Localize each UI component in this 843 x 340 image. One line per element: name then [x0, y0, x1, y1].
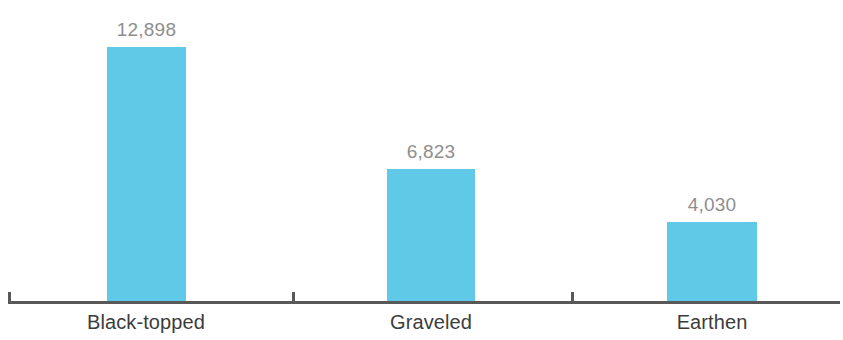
x-axis-tick	[292, 292, 295, 302]
bar-graveled	[387, 169, 475, 304]
x-axis-category-labels: Black-topped Graveled Earthen	[0, 308, 843, 340]
bar-value-label: 12,898	[117, 20, 176, 39]
bar-group-graveled: 6,823	[387, 169, 475, 304]
x-axis-tick	[571, 292, 574, 302]
plot-area: 12,898 6,823 4,030	[0, 0, 843, 304]
x-axis-line	[8, 301, 840, 304]
bar-value-label: 6,823	[407, 142, 456, 161]
x-axis-label-black-topped: Black-topped	[87, 308, 205, 336]
bar-earthen	[667, 222, 757, 304]
bar-chart: 12,898 6,823 4,030 Black-topped Graveled…	[0, 0, 843, 340]
x-axis-label-graveled: Graveled	[390, 308, 472, 336]
bar-value-label: 4,030	[688, 195, 737, 214]
bar-black-topped	[107, 47, 186, 304]
bar-group-black-topped: 12,898	[107, 47, 186, 304]
x-axis-label-earthen: Earthen	[677, 308, 748, 336]
bar-group-earthen: 4,030	[667, 222, 757, 304]
